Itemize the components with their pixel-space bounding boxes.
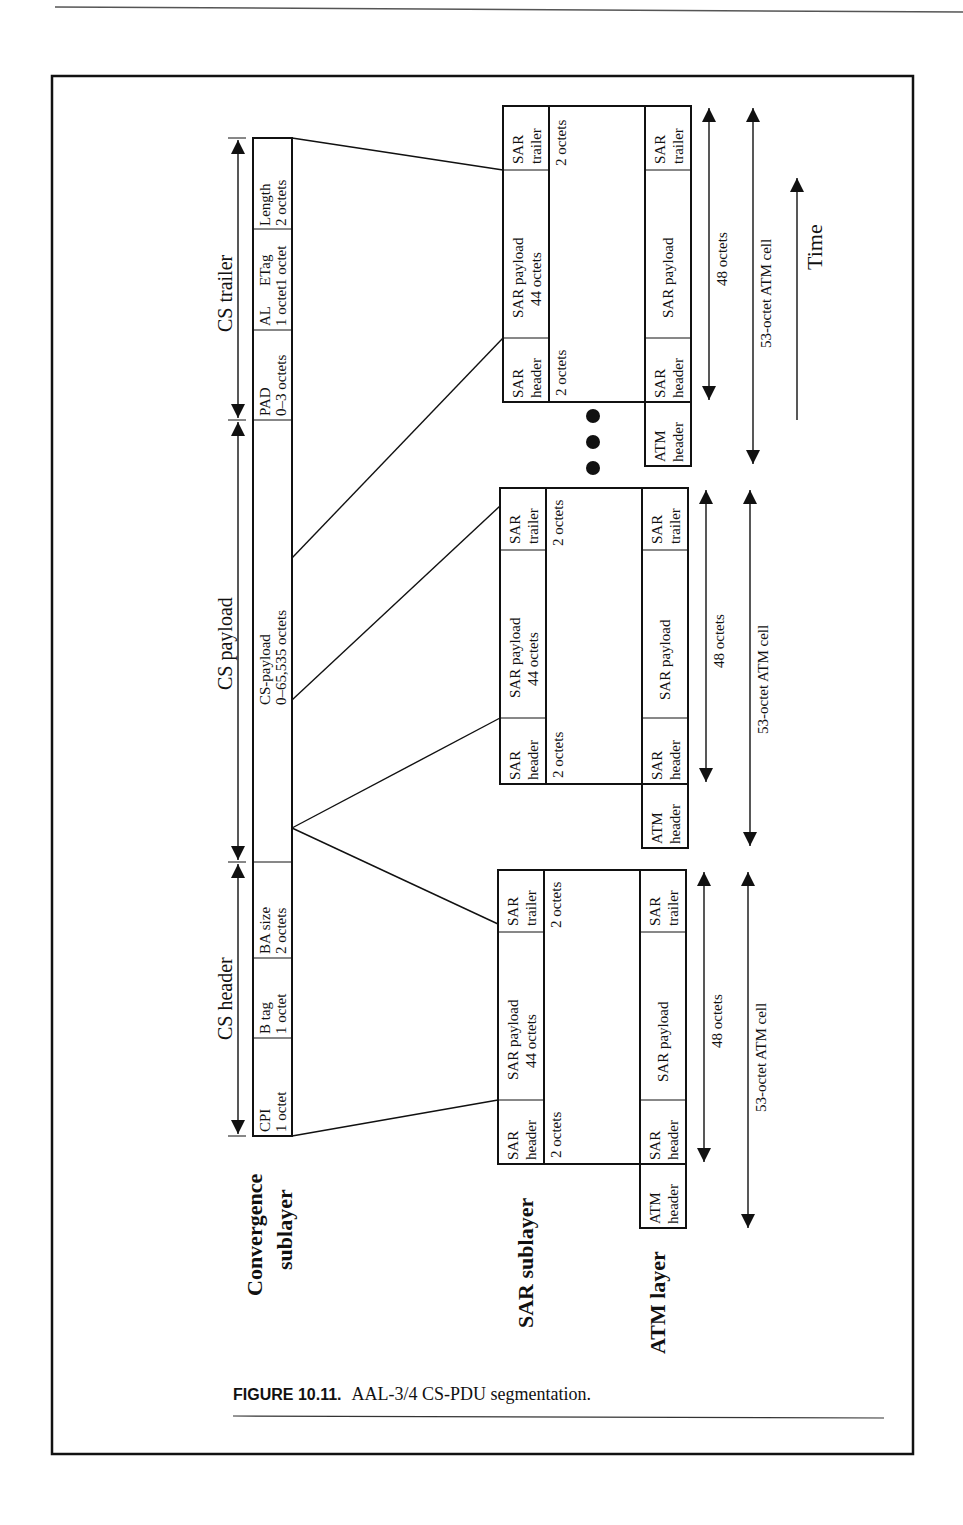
- svg-text:2 octets: 2 octets: [273, 908, 289, 954]
- svg-text:trailer: trailer: [665, 890, 681, 926]
- svg-text:SAR: SAR: [507, 515, 523, 544]
- svg-text:FIGURE 10.11. AAL-3/4 CS: FIGURE 10.11. AAL-3/4 CS-PDU segmentatio…: [233, 1384, 591, 1404]
- svg-text:48 octets: 48 octets: [714, 232, 730, 286]
- svg-text:SAR payload: SAR payload: [510, 237, 526, 318]
- svg-text:SAR payload: SAR payload: [660, 237, 676, 318]
- svg-text:trailer: trailer: [667, 508, 683, 544]
- sar-pdu-2: SAR header SAR payload 44 octets SAR tra…: [500, 488, 642, 784]
- svg-text:SAR: SAR: [505, 1131, 521, 1160]
- svg-text:Time: Time: [802, 224, 827, 270]
- svg-text:header: header: [665, 1120, 681, 1160]
- svg-text:0–65,535 octets: 0–65,535 octets: [273, 610, 289, 705]
- svg-text:BA size: BA size: [257, 907, 273, 954]
- svg-text:trailer: trailer: [525, 508, 541, 544]
- svg-text:SAR: SAR: [652, 135, 668, 164]
- svg-text:header: header: [670, 422, 686, 462]
- label-convergence: Convergence: [242, 1174, 267, 1296]
- svg-text:2 octets: 2 octets: [548, 1112, 564, 1158]
- svg-text:SAR: SAR: [510, 369, 526, 398]
- atm-cell-1: ATM header SAR header SAR payload SAR tr…: [640, 870, 769, 1228]
- svg-text:header: header: [667, 740, 683, 780]
- atm-cell-2: ATM header SAR header SAR payload SAR tr…: [642, 488, 771, 848]
- svg-text:44 octets: 44 octets: [523, 1014, 539, 1068]
- svg-text:ATM: ATM: [647, 1192, 663, 1224]
- cs-trailer-span: CS trailer: [214, 138, 246, 418]
- svg-text:2 octets: 2 octets: [273, 180, 289, 226]
- svg-text:SAR: SAR: [647, 897, 663, 926]
- figure-caption: FIGURE 10.11. AAL-3/4 CS-PDU segmentatio…: [233, 1384, 884, 1418]
- svg-text:Length: Length: [257, 183, 273, 226]
- svg-text:SAR: SAR: [649, 515, 665, 544]
- svg-text:SAR payload: SAR payload: [505, 999, 521, 1080]
- svg-text:CS trailer: CS trailer: [214, 254, 236, 332]
- svg-text:SAR: SAR: [647, 1131, 663, 1160]
- svg-text:ETag: ETag: [257, 254, 273, 286]
- svg-text:trailer: trailer: [670, 128, 686, 164]
- svg-text:SAR: SAR: [510, 135, 526, 164]
- cs-pdu: CPI 1 octet B tag 1 octet BA size 2 octe…: [214, 138, 292, 1136]
- figure-frame: [52, 76, 913, 1454]
- svg-text:header: header: [523, 1120, 539, 1160]
- caption-label: FIGURE 10.11.: [233, 1386, 342, 1403]
- svg-text:SAR payload: SAR payload: [507, 617, 523, 698]
- aal34-segmentation-diagram: CPI 1 octet B tag 1 octet BA size 2 octe…: [0, 0, 963, 1525]
- svg-text:AL: AL: [257, 306, 273, 326]
- segmentation-lines: [292, 138, 503, 1136]
- svg-text:SAR: SAR: [652, 369, 668, 398]
- label-convergence-sublayer: sublayer: [272, 1189, 297, 1270]
- svg-text:1 octet: 1 octet: [273, 285, 289, 326]
- svg-text:53-octet ATM cell: 53-octet ATM cell: [755, 625, 771, 734]
- svg-text:SAR: SAR: [505, 897, 521, 926]
- svg-text:CS-payload: CS-payload: [257, 634, 273, 705]
- svg-text:PAD: PAD: [257, 387, 273, 416]
- svg-text:header: header: [665, 1184, 681, 1224]
- field-length: Length 2 octets: [257, 180, 289, 226]
- sar-pdu-1: SAR header SAR payload 44 octets SAR tra…: [498, 870, 640, 1164]
- svg-text:header: header: [528, 358, 544, 398]
- svg-text:trailer: trailer: [528, 128, 544, 164]
- svg-text:header: header: [670, 358, 686, 398]
- time-axis: Time: [797, 178, 827, 420]
- svg-text:ATM: ATM: [649, 812, 665, 844]
- svg-text:48 octets: 48 octets: [709, 994, 725, 1048]
- svg-text:CS header: CS header: [214, 957, 236, 1040]
- svg-text:header: header: [667, 804, 683, 844]
- svg-text:SAR payload: SAR payload: [655, 1001, 671, 1082]
- atm-cell-3: ATM header SAR header SAR payload SAR tr…: [645, 106, 774, 466]
- svg-text:0–3 octets: 0–3 octets: [273, 355, 289, 416]
- svg-text:B tag: B tag: [257, 1001, 273, 1034]
- svg-text:CS payload: CS payload: [214, 597, 237, 690]
- svg-text:44 octets: 44 octets: [528, 252, 544, 306]
- svg-text:2 octets: 2 octets: [550, 732, 566, 778]
- field-ba-size: BA size 2 octets: [257, 907, 289, 954]
- svg-text:SAR: SAR: [507, 751, 523, 780]
- svg-text:CPI: CPI: [257, 1109, 273, 1132]
- sar-pdu-3: SAR header SAR payload 44 octets SAR tra…: [503, 106, 645, 402]
- label-sar-sublayer: SAR sublayer: [513, 1198, 538, 1328]
- svg-text:44 octets: 44 octets: [525, 632, 541, 686]
- svg-text:53-octet ATM cell: 53-octet ATM cell: [753, 1003, 769, 1112]
- svg-text:1 octet: 1 octet: [273, 1091, 289, 1132]
- svg-text:2 octets: 2 octets: [548, 882, 564, 928]
- svg-text:trailer: trailer: [523, 890, 539, 926]
- svg-text:2 octets: 2 octets: [550, 500, 566, 546]
- svg-text:SAR payload: SAR payload: [657, 619, 673, 700]
- svg-text:2 octets: 2 octets: [553, 120, 569, 166]
- svg-text:1 octet: 1 octet: [273, 993, 289, 1034]
- svg-text:ATM: ATM: [652, 430, 668, 462]
- label-atm-layer: ATM layer: [645, 1251, 670, 1354]
- ellipsis-dots: [586, 409, 600, 475]
- svg-text:1 octet: 1 octet: [273, 245, 289, 286]
- svg-text:53-octet ATM cell: 53-octet ATM cell: [758, 239, 774, 348]
- cs-payload-span: CS payload: [214, 422, 238, 860]
- page-top-rule: [55, 7, 963, 12]
- cs-header-span: CS header: [214, 864, 246, 1136]
- svg-text:48 octets: 48 octets: [711, 614, 727, 668]
- caption-text: AAL-3/4 CS-PDU segmentation.: [352, 1384, 591, 1404]
- svg-text:2 octets: 2 octets: [553, 350, 569, 396]
- svg-text:header: header: [525, 740, 541, 780]
- svg-text:SAR: SAR: [649, 751, 665, 780]
